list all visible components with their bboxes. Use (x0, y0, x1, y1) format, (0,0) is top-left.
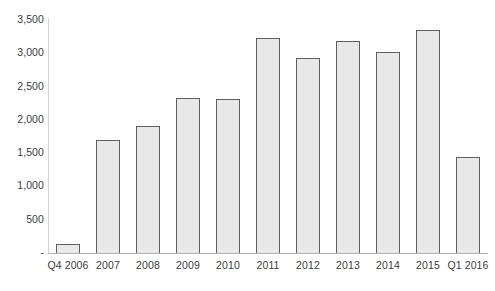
bar[interactable] (216, 99, 239, 254)
bar-slot (96, 14, 119, 254)
bar[interactable] (456, 157, 479, 254)
x-axis-tick-label: Q1 2016 (442, 259, 494, 271)
y-axis-tick-label: 1,000 (0, 180, 44, 191)
bar[interactable] (176, 98, 199, 254)
bar-chart: -5001,0001,5002,0002,5003,0003,500 Q4 20… (0, 0, 495, 291)
y-axis-tick-label: 2,500 (0, 81, 44, 92)
bar-slot (416, 14, 439, 254)
y-axis-tick-label: 3,000 (0, 47, 44, 58)
x-axis-line (48, 253, 488, 254)
y-axis-tick-label: 2,000 (0, 114, 44, 125)
bar[interactable] (296, 58, 319, 254)
bar-slot (376, 14, 399, 254)
y-axis-tick-label: 1,500 (0, 147, 44, 158)
y-axis-tick-label: 500 (0, 214, 44, 225)
x-axis-tick-labels: Q4 2006200720082009201020112012201320142… (48, 257, 488, 279)
bar[interactable] (416, 30, 439, 254)
bar-slot (216, 14, 239, 254)
bars-layer (48, 14, 488, 254)
bar-slot (256, 14, 279, 254)
y-axis-tick-label: - (0, 247, 44, 258)
y-axis-tick-label: 3,500 (0, 14, 44, 25)
bar[interactable] (376, 52, 399, 254)
y-axis-tick-labels: -5001,0001,5002,0002,5003,0003,500 (0, 0, 44, 291)
bar[interactable] (96, 140, 119, 255)
bar[interactable] (256, 38, 279, 254)
bar[interactable] (136, 126, 159, 254)
bar-slot (456, 14, 479, 254)
bar-slot (336, 14, 359, 254)
bar-slot (136, 14, 159, 254)
bar-slot (296, 14, 319, 254)
bar-slot (176, 14, 199, 254)
bar[interactable] (336, 41, 359, 254)
bar-slot (56, 14, 79, 254)
